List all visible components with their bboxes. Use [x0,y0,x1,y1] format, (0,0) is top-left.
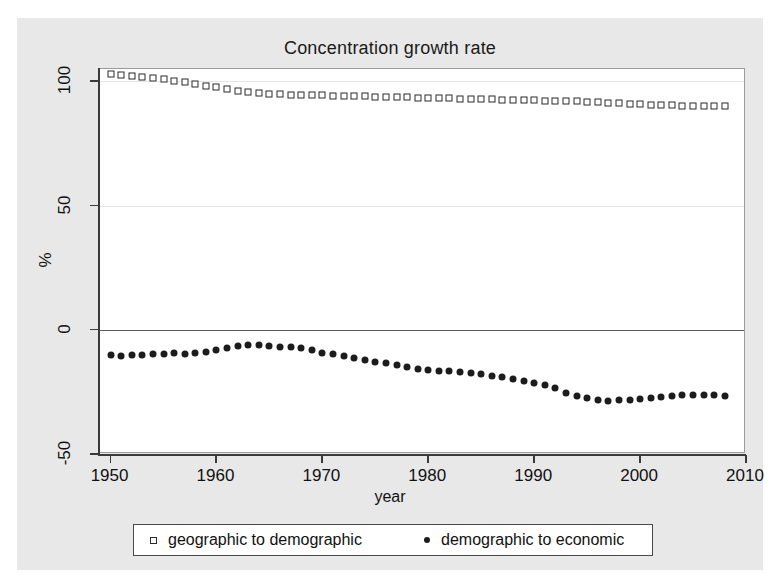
data-point-series-0 [382,93,389,100]
data-point-series-0 [266,90,273,97]
data-point-series-0 [224,86,231,93]
data-point-series-1 [361,356,368,363]
data-point-series-0 [435,95,442,102]
x-tick-2000 [639,455,641,463]
data-point-series-1 [679,392,686,399]
x-tick-1950 [110,455,112,463]
data-point-series-1 [298,344,305,351]
data-point-series-1 [329,351,336,358]
data-point-series-0 [319,92,326,99]
open-square-icon [150,537,157,544]
data-point-series-0 [573,98,580,105]
filled-circle-icon [424,537,430,543]
data-point-series-1 [107,352,114,359]
data-point-series-0 [499,96,506,103]
y-tick-0 [90,329,98,331]
data-point-series-1 [372,358,379,365]
x-tick-1960 [215,455,217,463]
gridline-y-50 [100,206,744,207]
data-point-series-0 [139,73,146,80]
data-point-series-1 [531,379,538,386]
data-point-series-0 [531,97,538,104]
x-tick-label-2000: 2000 [604,466,674,486]
data-point-series-1 [700,391,707,398]
data-point-series-1 [224,344,231,351]
data-point-series-1 [594,396,601,403]
data-point-series-0 [149,75,156,82]
data-point-series-1 [171,350,178,357]
y-tick-label-text: 50 [55,185,75,225]
data-point-series-1 [541,381,548,388]
data-point-series-0 [181,79,188,86]
y-tick-label--50: -50 [45,443,85,463]
data-point-series-0 [393,94,400,101]
data-point-series-0 [690,102,697,109]
data-point-series-1 [287,344,294,351]
legend-item-0[interactable]: geographic to demographic [150,525,362,555]
data-point-series-0 [340,92,347,99]
data-point-series-1 [181,350,188,357]
data-point-series-0 [329,92,336,99]
data-point-series-1 [351,354,358,361]
data-point-series-1 [562,389,569,396]
data-point-series-1 [615,397,622,404]
data-point-series-1 [605,398,612,405]
data-point-series-0 [372,93,379,100]
data-point-series-0 [478,96,485,103]
y-tick-100 [90,80,98,82]
data-point-series-1 [414,365,421,372]
data-point-series-0 [107,70,114,77]
data-point-series-0 [668,102,675,109]
data-point-series-1 [245,342,252,349]
data-point-series-1 [584,395,591,402]
data-point-series-0 [584,98,591,105]
y-tick-label-100: 100 [45,70,85,90]
legend-label: geographic to demographic [168,531,362,549]
data-point-series-0 [351,93,358,100]
y-tick-50 [90,205,98,207]
data-point-series-1 [277,343,284,350]
data-point-series-1 [711,392,718,399]
y-axis-line [98,68,100,455]
figure-canvas: Concentration growth rate -50050100 1950… [17,18,763,570]
data-point-series-1 [668,393,675,400]
x-tick-1980 [427,455,429,463]
data-point-series-0 [700,103,707,110]
data-point-series-0 [647,101,654,108]
data-point-series-1 [637,395,644,402]
data-point-series-1 [446,367,453,374]
data-point-series-0 [298,91,305,98]
data-point-series-1 [435,368,442,375]
legend-item-1[interactable]: demographic to economic [424,525,624,555]
x-tick-1970 [321,455,323,463]
plot-area [99,68,745,453]
data-point-series-0 [594,99,601,106]
data-point-series-1 [202,349,209,356]
data-point-series-1 [721,392,728,399]
data-point-series-0 [626,100,633,107]
data-point-series-1 [658,393,665,400]
y-axis-title: % [31,250,61,270]
data-point-series-0 [467,95,474,102]
data-point-series-1 [457,368,464,375]
data-point-series-0 [711,103,718,110]
data-point-series-0 [552,97,559,104]
data-point-series-0 [213,84,220,91]
x-tick-label-1960: 1960 [180,466,250,486]
data-point-series-0 [658,102,665,109]
x-tick-label-1990: 1990 [498,466,568,486]
data-point-series-1 [510,376,517,383]
data-point-series-1 [690,392,697,399]
data-point-series-1 [425,367,432,374]
x-tick-label-1950: 1950 [75,466,145,486]
data-point-series-1 [552,385,559,392]
y-tick-label-50: 50 [45,195,85,215]
y-tick-label-text: 0 [55,309,75,349]
chart-legend: geographic to demographicdemographic to … [133,524,653,556]
data-point-series-0 [562,98,569,105]
data-point-series-1 [139,351,146,358]
data-point-series-1 [404,364,411,371]
data-point-series-0 [457,95,464,102]
y-tick-label-text: 100 [55,60,75,100]
data-point-series-0 [615,100,622,107]
